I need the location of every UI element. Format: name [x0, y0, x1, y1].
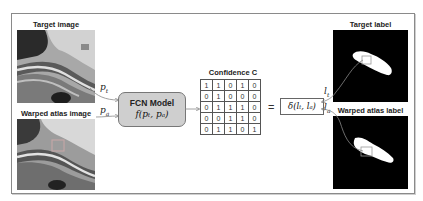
connector-arrows — [0, 0, 423, 201]
